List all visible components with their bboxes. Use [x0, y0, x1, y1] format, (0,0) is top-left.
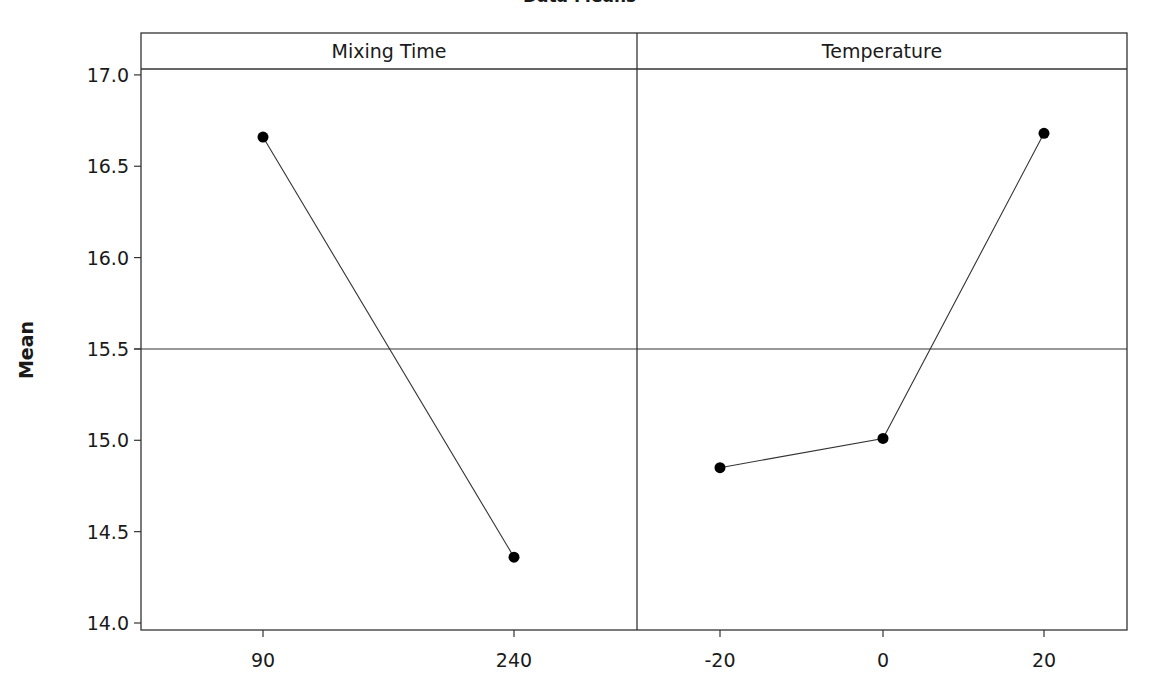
series-line [720, 133, 1044, 467]
panel-strip-label: Temperature [821, 40, 942, 62]
y-tick-label: 17.0 [87, 64, 129, 86]
y-axis: 14.014.515.015.516.016.517.0 [87, 64, 141, 634]
data-point [715, 462, 726, 473]
panel-temperature: Temperature-20020 [637, 33, 1056, 671]
series-line [263, 137, 514, 557]
x-tick-label: 20 [1032, 649, 1056, 671]
outer-border [141, 33, 1127, 630]
y-tick-label: 16.5 [87, 155, 129, 177]
data-point [258, 132, 269, 143]
x-tick-label: -20 [704, 649, 735, 671]
data-point [509, 552, 520, 563]
y-tick-label: 15.0 [87, 429, 129, 451]
y-tick-label: 14.5 [87, 521, 129, 543]
y-tick-label: 15.5 [87, 338, 129, 360]
main-effects-plot: 14.014.515.015.516.016.517.0 Mixing Time… [0, 0, 1159, 689]
panels: Mixing Time90240Temperature-20020 [251, 33, 1056, 671]
panel-mixing-time: Mixing Time90240 [251, 40, 532, 671]
y-tick-label: 14.0 [87, 612, 129, 634]
data-point [1039, 128, 1050, 139]
data-point [878, 433, 889, 444]
y-tick-label: 16.0 [87, 247, 129, 269]
x-tick-label: 240 [496, 649, 532, 671]
x-tick-label: 90 [251, 649, 275, 671]
plot-frame [134, 33, 1127, 630]
panel-strip-label: Mixing Time [332, 40, 447, 62]
x-tick-label: 0 [877, 649, 889, 671]
